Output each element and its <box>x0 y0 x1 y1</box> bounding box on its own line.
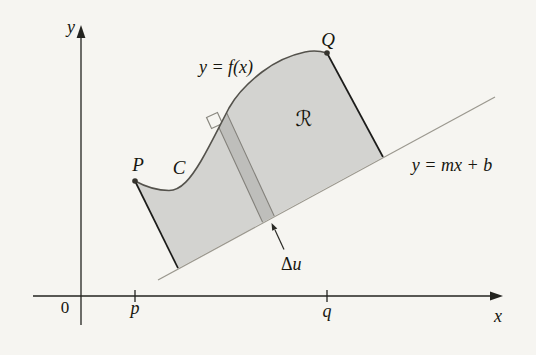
delta-symbol: Δ <box>281 254 293 274</box>
y-axis-arrowhead-icon <box>77 25 86 38</box>
line-equation-label: y = mx + b <box>410 155 492 175</box>
diagram-svg: y x 0 p q y = f(x) y = mx + b P C Q ℛ Δu <box>0 0 536 355</box>
delta-variable: u <box>293 254 302 274</box>
curve-name-label: C <box>173 157 186 178</box>
figure-canvas: y x 0 p q y = f(x) y = mx + b P C Q ℛ Δu <box>0 0 536 355</box>
delta-u-arrowhead-icon <box>272 223 278 231</box>
delta-u-arrow <box>272 223 285 250</box>
region-label: ℛ <box>296 107 313 131</box>
delta-u-arrow-shaft <box>275 230 284 250</box>
origin-label: 0 <box>61 298 70 317</box>
curve-equation-label: y = f(x) <box>197 57 253 78</box>
p-tick-label: p <box>129 298 140 318</box>
x-axis-label: x <box>493 306 502 326</box>
y-axis-label: y <box>65 17 75 37</box>
point-P-label: P <box>131 154 144 175</box>
q-tick-label: q <box>323 301 332 321</box>
x-axis-arrowhead-icon <box>490 292 503 301</box>
delta-u-label: Δu <box>281 254 302 274</box>
point-Q-dot <box>324 50 330 56</box>
point-Q-label: Q <box>321 29 335 50</box>
point-P-dot <box>132 178 138 184</box>
